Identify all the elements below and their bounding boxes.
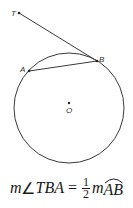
label-b: B (99, 55, 105, 64)
center-o-dot (68, 102, 70, 104)
angle-symbol: ∠ (21, 179, 35, 198)
chord-ab (29, 61, 97, 71)
formula-m1: m (10, 179, 22, 197)
formula-equals: = (68, 179, 77, 197)
circle-diagram: T B A O (0, 0, 133, 168)
formula-m2: m (92, 179, 104, 197)
fraction-one-half: 1 2 (82, 177, 90, 200)
label-o: O (66, 106, 72, 115)
label-t: T (11, 9, 17, 18)
arc-overline-icon (104, 176, 124, 184)
point-t-dot (18, 12, 21, 15)
inscribed-angle-formula: m ∠ TBA = 1 2 m AB (0, 168, 133, 208)
formula-angle-name: TBA (35, 179, 63, 197)
fraction-denominator: 2 (83, 189, 89, 200)
point-b-dot (96, 60, 99, 63)
label-a: A (19, 65, 25, 74)
arc-ab-notation: AB (104, 178, 124, 199)
point-a-dot (28, 70, 31, 73)
